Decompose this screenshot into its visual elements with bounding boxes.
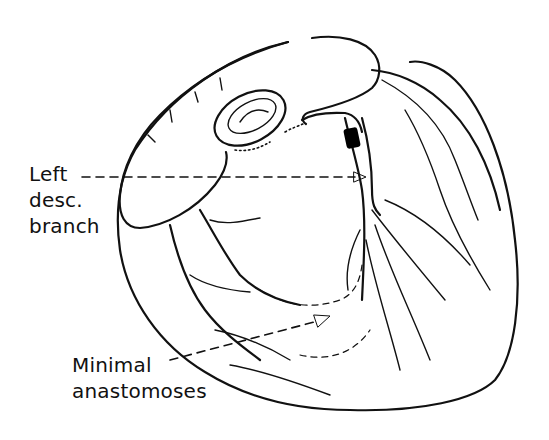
- lad-branch-3: [366, 240, 400, 370]
- marginal-branch-2: [405, 110, 490, 290]
- label-line: desc.: [29, 187, 100, 213]
- arc-twig-4: [148, 135, 155, 142]
- left-twig-1: [210, 218, 260, 223]
- anastomosis-vessel-2: [300, 330, 370, 357]
- left-twig-4: [230, 365, 330, 395]
- lad-branch-1: [372, 210, 445, 300]
- minimal-anastomoses-label: Minimal anastomoses: [72, 352, 207, 404]
- aortic-root: [205, 79, 295, 157]
- anastomoses-arrowhead: [314, 315, 330, 327]
- right-coronary-descending: [170, 225, 260, 360]
- label-line: anastomoses: [72, 378, 207, 404]
- lad-right-wall: [362, 118, 380, 215]
- valve-cusp: [240, 110, 268, 122]
- left-desc-branch-label: Left desc. branch: [29, 161, 100, 239]
- arc-twig-1: [220, 78, 222, 90]
- coronary-artery-diagram: Left desc. branch Minimal anastomoses: [0, 0, 549, 440]
- lad-branch-2: [375, 225, 430, 360]
- posterior-branch: [200, 210, 300, 305]
- label-line: Left: [29, 161, 100, 187]
- right-top-vessel: [303, 37, 379, 124]
- label-line: Minimal: [72, 352, 207, 378]
- aortic-valve: [222, 91, 281, 140]
- occlusion-block: [343, 127, 361, 149]
- arc-twig-3: [170, 110, 172, 122]
- label-line: branch: [29, 213, 100, 239]
- anastomosis-vessel-1: [260, 265, 362, 305]
- arc-twig-2: [195, 92, 198, 102]
- circumflex-branch: [372, 70, 500, 210]
- left-twig-2: [190, 275, 250, 292]
- aorta-dotted-edge-2: [285, 124, 303, 132]
- marginal-branch-1: [382, 80, 478, 220]
